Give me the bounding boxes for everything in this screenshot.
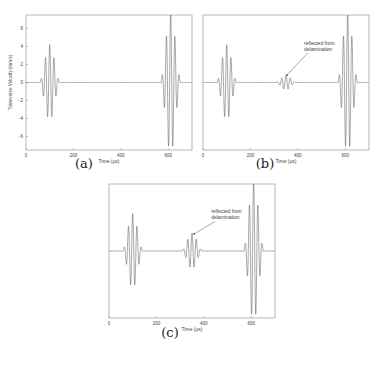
annotation-text: delamination <box>304 46 333 52</box>
x-tick-label: 600 <box>248 321 256 326</box>
annotation-arrow <box>287 53 308 75</box>
annotation-text: delamination <box>211 214 240 220</box>
chart-c: 0200400600Time (μs)reflected fromdelamin… <box>79 154 305 348</box>
annotation-arrow <box>194 221 215 233</box>
x-tick-label: 0 <box>25 153 28 158</box>
y-tick-label: 4 <box>20 44 23 49</box>
y-tick-label: -4 <box>19 116 23 121</box>
y-tick-label: 2 <box>20 62 23 67</box>
y-tick-label: -6 <box>19 134 23 139</box>
waveform-line <box>203 13 369 146</box>
x-tick-label: 0 <box>108 321 111 326</box>
waveform-line <box>26 13 192 146</box>
y-axis-label: Transverse Velocity (mm/s) <box>8 54 13 110</box>
waveform-line <box>109 182 275 314</box>
caption-c: (c) <box>150 325 190 340</box>
y-tick-label: 6 <box>20 26 23 31</box>
chart-b: 0200400600Time (μs)reflected fromdelamin… <box>173 0 382 180</box>
y-tick-label: -2 <box>19 98 23 103</box>
y-tick-label: 0 <box>20 80 23 85</box>
x-tick-label: 600 <box>342 153 350 158</box>
